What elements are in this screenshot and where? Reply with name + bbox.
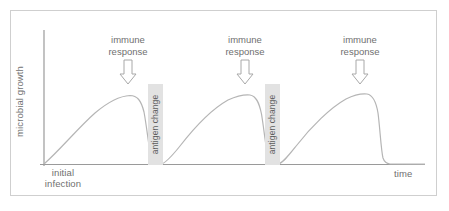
immune-response-arrow-1 [120, 60, 136, 84]
microbial-growth-curve [44, 94, 425, 164]
immune-response-label-1: immune response [83, 34, 173, 57]
antigen-change-box-2: antigen change [265, 84, 280, 165]
figure-container: antigen change antigen change immune res… [0, 0, 449, 211]
x-axis-label: time [394, 168, 412, 179]
antigen-change-label: antigen change [148, 84, 163, 165]
immune-response-label-2: immune response [200, 34, 290, 57]
y-axis-label: microbial growth [14, 59, 25, 145]
antigen-change-box-1: antigen change [148, 84, 163, 165]
initial-infection-label: initial infection [26, 167, 100, 189]
immune-response-label-3: immune response [315, 34, 405, 57]
antigen-change-label: antigen change [265, 84, 280, 165]
immune-response-arrow-2 [237, 60, 253, 84]
immune-response-arrow-3 [352, 60, 368, 84]
